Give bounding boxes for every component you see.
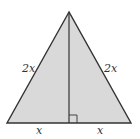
left-side-label: 2x bbox=[21, 62, 36, 75]
triangle-diagram: 2x 2x x x bbox=[0, 0, 140, 139]
right-base-label: x bbox=[97, 124, 104, 137]
left-base-label: x bbox=[36, 124, 43, 137]
right-side-label: 2x bbox=[103, 62, 118, 75]
